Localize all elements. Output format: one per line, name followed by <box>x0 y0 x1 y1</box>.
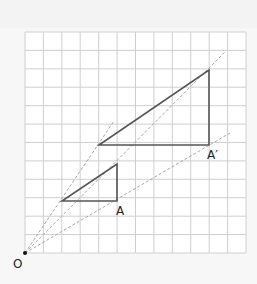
dilation-diagram <box>0 0 257 284</box>
origin-point <box>23 251 27 255</box>
vertex-A-prime-label: A′ <box>207 149 218 161</box>
origin-label: O <box>13 258 22 270</box>
vertex-A-label: A <box>116 205 124 217</box>
